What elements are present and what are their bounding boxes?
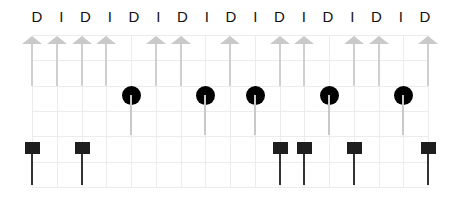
sequence-diagram: DIDIDIDIDIDIDIDID (0, 0, 459, 200)
column-label-12: D (318, 8, 338, 25)
column-label-13: I (342, 8, 362, 25)
column-label-5: I (148, 8, 168, 25)
column-label-2: D (76, 8, 96, 25)
column-label-1: I (51, 8, 71, 25)
column-label-3: I (100, 8, 120, 25)
column-label-16: D (415, 8, 435, 25)
column-label-10: D (270, 8, 290, 25)
column-label-11: I (294, 8, 314, 25)
column-label-14: D (367, 8, 387, 25)
column-label-0: D (27, 8, 47, 25)
column-label-8: D (221, 8, 241, 25)
column-label-6: D (173, 8, 193, 25)
column-label-15: I (391, 8, 411, 25)
column-label-4: D (124, 8, 144, 25)
column-label-7: I (197, 8, 217, 25)
column-label-9: I (245, 8, 265, 25)
